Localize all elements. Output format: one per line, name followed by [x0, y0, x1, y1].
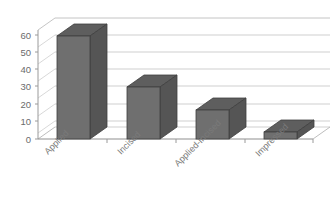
y-tick-label: 0 [26, 134, 31, 145]
bar-applied[interactable] [57, 24, 107, 139]
bar-front-face [127, 87, 160, 139]
chart-container: 60 50 40 30 20 10 0 [0, 0, 332, 208]
y-axis-icon [35, 30, 38, 139]
bar-chart-icon: 60 50 40 30 20 10 0 [0, 0, 332, 208]
y-tick-label: 10 [20, 116, 31, 127]
y-tick-label: 50 [20, 47, 31, 58]
y-tick-label: 20 [20, 99, 31, 110]
bar-side-face [90, 24, 107, 139]
y-tick-label: 60 [20, 30, 31, 41]
bar-front-face [57, 36, 90, 139]
y-tick-labels: 60 50 40 30 20 10 0 [20, 30, 31, 145]
y-tick-label: 30 [20, 81, 31, 92]
y-tick-label: 40 [20, 64, 31, 75]
x-tick-label-applied: Applied [42, 128, 70, 156]
